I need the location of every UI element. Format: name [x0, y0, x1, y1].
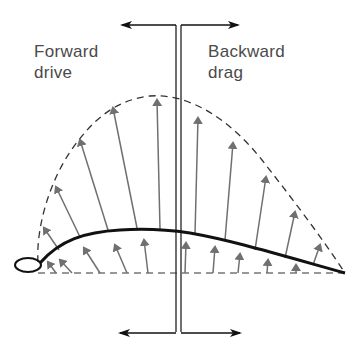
forward-drive-label: Forward drive — [34, 41, 98, 83]
airfoil-pressure-diagram: Forward drive Backward drag — [0, 0, 360, 349]
backward-label-line2: drag — [208, 62, 285, 83]
backward-label-line1: Backward — [208, 41, 285, 62]
pressure-envelope-dashed-curve — [38, 96, 345, 273]
forward-label-line2: drive — [34, 62, 98, 83]
forward-label-line1: Forward — [34, 41, 98, 62]
upper-surface-force-arrows — [44, 100, 320, 265]
backward-drag-label: Backward drag — [208, 41, 285, 83]
vertical-reference-double-line — [176, 25, 181, 332]
lower-surface-force-arrows — [48, 240, 296, 273]
